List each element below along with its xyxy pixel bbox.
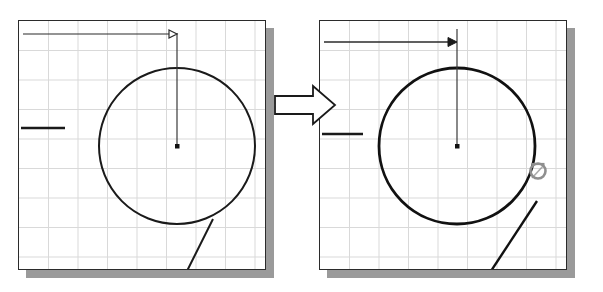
- after-center-point[interactable]: [455, 144, 460, 149]
- grid-lines: [320, 21, 567, 270]
- after-dimension-arrowhead-solid[interactable]: [448, 38, 457, 47]
- grid-lines: [19, 21, 266, 270]
- before-center-point[interactable]: [175, 144, 180, 149]
- after-panel[interactable]: [319, 20, 567, 270]
- before-dimension-arrowhead-hollow[interactable]: [169, 30, 177, 38]
- transition-arrow-shape: [275, 86, 335, 124]
- tangent-osnap-icon[interactable]: [531, 164, 546, 179]
- before-panel[interactable]: [18, 20, 266, 270]
- before-tangent-line[interactable]: [187, 219, 213, 270]
- before-panel-canvas: [19, 21, 266, 270]
- illustration-stage: [0, 0, 603, 292]
- after-panel-canvas: [320, 21, 567, 270]
- transition-arrow: [273, 84, 337, 126]
